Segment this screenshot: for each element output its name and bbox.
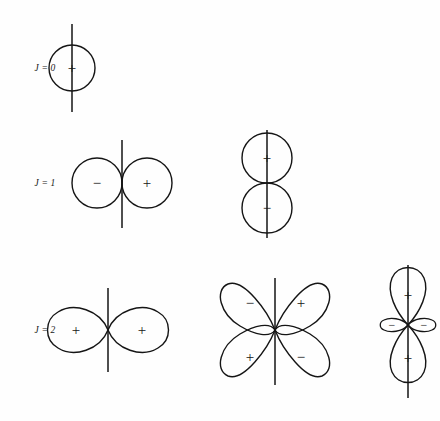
- sign-label-plus-upper-right: +: [297, 295, 305, 311]
- sign-label-plus-bottom: +: [404, 350, 412, 366]
- row-label-j1: J = 1: [34, 178, 55, 188]
- sign-label-plus-left: +: [72, 322, 80, 338]
- row-label-j0: J = 0: [34, 63, 55, 73]
- diagram-dipole-horizontal: − +: [72, 140, 172, 228]
- figure-root: J = 0 J = 1 J = 2 + − + + −: [0, 0, 440, 421]
- diagram-quadrupole-dz2: + + − −: [380, 265, 436, 398]
- sign-label-plus: +: [263, 150, 271, 166]
- sign-label-minus: −: [263, 200, 271, 216]
- sign-label-plus: +: [68, 60, 76, 76]
- sign-label-plus: +: [143, 175, 151, 191]
- sign-label-minus: −: [93, 175, 101, 191]
- diagram-dipole-vertical: + −: [242, 130, 292, 238]
- sign-label-minus-lower-right: −: [297, 349, 305, 365]
- sign-label-minus-left-small: −: [389, 318, 396, 332]
- diagram-quadrupole-cloverleaf: − + + −: [220, 278, 329, 385]
- sign-label-plus-lower-left: +: [246, 349, 254, 365]
- sign-label-plus-right: +: [138, 322, 146, 338]
- sign-label-minus-right-small: −: [421, 318, 428, 332]
- sign-label-minus-upper-left: −: [246, 295, 254, 311]
- diagram-quadrupole-figure-eight: + +: [48, 288, 169, 372]
- row-label-j2: J = 2: [34, 325, 55, 335]
- diagram-monopole-circle: +: [49, 24, 95, 112]
- sign-label-plus-top: +: [404, 287, 412, 303]
- row-label-group: J = 0 J = 1 J = 2: [34, 63, 55, 335]
- multipole-diagram-canvas: J = 0 J = 1 J = 2 + − + + −: [0, 0, 440, 421]
